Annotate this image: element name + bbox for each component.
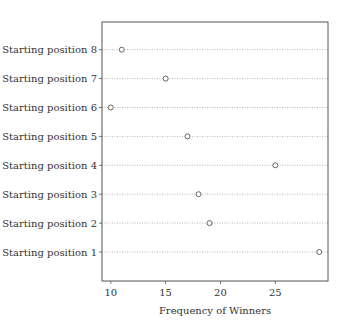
x-axis-ticks: 10152025 bbox=[104, 281, 281, 298]
data-point bbox=[163, 76, 168, 81]
y-axis-labels: Starting position 1Starting position 2St… bbox=[2, 44, 102, 257]
data-point bbox=[207, 221, 212, 226]
y-tick-label: Starting position 1 bbox=[2, 247, 97, 258]
plot-frame bbox=[102, 22, 328, 281]
x-tick-label: 10 bbox=[104, 287, 117, 298]
y-tick-label: Starting position 6 bbox=[2, 102, 97, 113]
data-point bbox=[119, 47, 124, 52]
y-tick-label: Starting position 4 bbox=[2, 160, 97, 171]
dot-plot-chart: Starting position 1Starting position 2St… bbox=[0, 0, 344, 332]
data-point bbox=[273, 163, 278, 168]
x-axis-title: Frequency of Winners bbox=[159, 305, 271, 316]
y-tick-label: Starting position 3 bbox=[2, 189, 97, 200]
data-point bbox=[108, 105, 113, 110]
data-point bbox=[196, 192, 201, 197]
data-point bbox=[185, 134, 190, 139]
y-tick-label: Starting position 2 bbox=[2, 218, 97, 229]
y-tick-label: Starting position 8 bbox=[2, 44, 97, 55]
x-tick-label: 25 bbox=[269, 287, 282, 298]
x-tick-label: 15 bbox=[159, 287, 172, 298]
x-tick-label: 20 bbox=[214, 287, 227, 298]
grid-lines bbox=[102, 50, 328, 252]
data-point bbox=[317, 250, 322, 255]
y-tick-label: Starting position 7 bbox=[2, 73, 97, 84]
y-tick-label: Starting position 5 bbox=[2, 131, 97, 142]
